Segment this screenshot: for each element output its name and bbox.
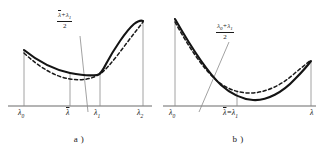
annotation-numerator-b: λ0+λ1 — [216, 23, 234, 33]
figure-panel-a: λ+λ1 2 λ0 λ λ1 λ2 a ) — [0, 0, 158, 150]
annotation-fraction-b: λ0+λ1 2 — [216, 23, 234, 41]
true-function-curve-solid — [175, 19, 311, 100]
axis-tick-label-lambda-bar-a: λ — [66, 109, 69, 117]
axis-tick-label-lambda-1-a: λ1 — [94, 109, 100, 119]
panel-caption-b: b ) — [159, 134, 317, 144]
axis-tick-label-lambda-0-a: λ0 — [18, 109, 24, 119]
annotation-denominator-a: 2 — [57, 22, 72, 30]
annotation-fraction-a: λ+λ1 2 — [57, 12, 72, 30]
panel-a-plot — [0, 0, 158, 150]
axis-tick-label-lambda-0-b: λ0 — [169, 109, 175, 119]
annotation-numerator-a: λ+λ1 — [57, 12, 72, 22]
axis-tick-label-lambda-bar-equals-lambda-1-b: λ=λ1 — [223, 109, 238, 119]
figure-root: λ+λ1 2 λ0 λ λ1 λ2 a ) λ0+λ1 2 — [0, 0, 317, 150]
axis-tick-label-lambda-2-a: λ2 — [137, 109, 143, 119]
panel-b-plot — [159, 0, 317, 150]
axis-tick-label-lambda-b: λ — [310, 109, 313, 117]
figure-panel-b: λ0+λ1 2 λ0 λ=λ1 λ b ) — [159, 0, 317, 150]
annotation-denominator-b: 2 — [216, 33, 234, 41]
panel-caption-a: a ) — [0, 134, 158, 144]
